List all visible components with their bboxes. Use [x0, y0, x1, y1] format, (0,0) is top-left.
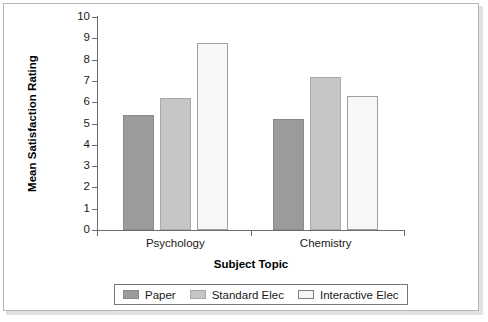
y-tick-label: 5: [84, 118, 90, 130]
y-tick-mark: [92, 81, 97, 82]
bar: [160, 98, 191, 230]
y-tick-label: 4: [84, 139, 90, 151]
chart-figure: Mean Satisfaction Rating 012345678910 Ps…: [0, 0, 488, 322]
bar: [310, 77, 341, 230]
y-tick-mark: [92, 60, 97, 61]
legend-swatch-icon: [123, 290, 139, 299]
y-tick-label: 2: [84, 182, 90, 194]
y-tick-label: 7: [84, 75, 90, 87]
chart-legend: PaperStandard ElecInteractive Elec: [114, 284, 408, 305]
y-tick-mark: [92, 209, 97, 210]
legend-swatch-icon: [190, 290, 206, 299]
x-tick-mark: [97, 231, 98, 236]
y-tick-label: 9: [84, 33, 90, 45]
legend-item[interactable]: Standard Elec: [190, 289, 284, 301]
y-tick-label: 8: [84, 54, 90, 66]
y-tick-mark: [92, 187, 97, 188]
y-tick-label: 3: [84, 160, 90, 172]
category-label: Psychology: [146, 237, 205, 249]
category-label: Chemistry: [300, 237, 352, 249]
y-axis-title: Mean Satisfaction Rating: [24, 17, 40, 230]
y-tick-mark: [92, 38, 97, 39]
bar: [347, 96, 378, 230]
y-tick-mark: [92, 102, 97, 103]
y-tick-label: 0: [84, 224, 90, 236]
y-tick-mark: [92, 166, 97, 167]
x-tick-mark: [251, 231, 252, 236]
legend-label: Paper: [145, 289, 176, 301]
plot-area: 012345678910: [97, 17, 404, 230]
y-tick-mark: [92, 145, 97, 146]
y-tick-mark: [92, 17, 97, 18]
y-tick-label: 1: [84, 203, 90, 215]
x-axis-title: Subject Topic: [97, 258, 405, 270]
y-tick-mark: [92, 124, 97, 125]
bar: [123, 115, 154, 230]
bar: [197, 43, 228, 230]
y-tick-label: 6: [84, 96, 90, 108]
legend-swatch-icon: [298, 290, 314, 299]
legend-label: Standard Elec: [212, 289, 284, 301]
legend-item[interactable]: Interactive Elec: [298, 289, 399, 301]
y-tick-label: 10: [77, 11, 90, 23]
bar: [273, 119, 304, 230]
legend-label: Interactive Elec: [320, 289, 399, 301]
legend-item[interactable]: Paper: [123, 289, 176, 301]
x-tick-mark: [404, 231, 405, 236]
